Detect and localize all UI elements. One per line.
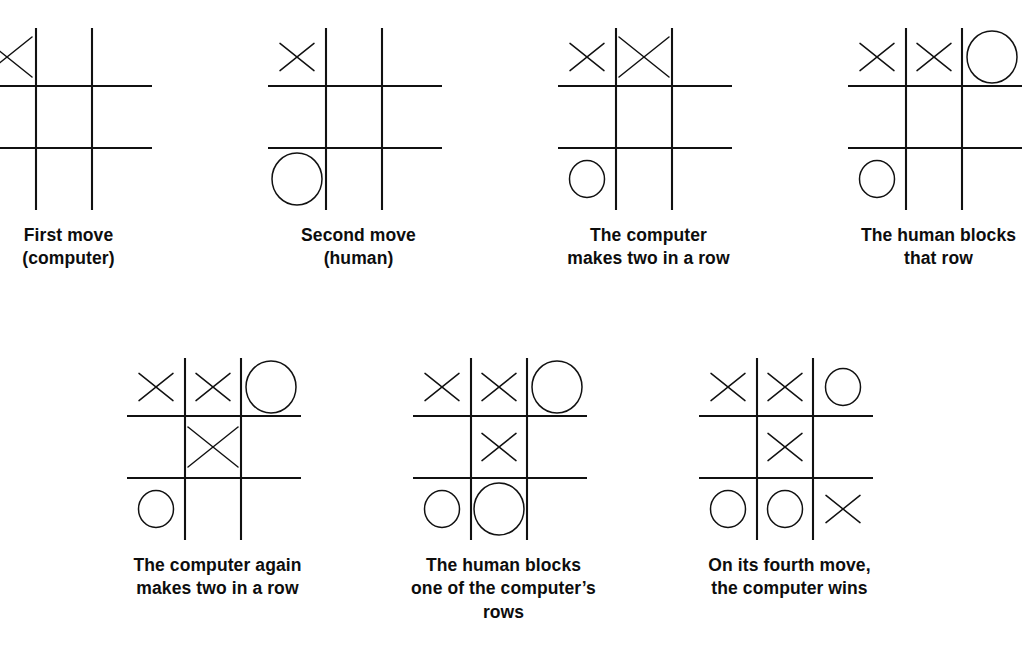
board-2 [264, 18, 454, 218]
o-circle [967, 31, 1017, 83]
o-circle [569, 161, 604, 198]
caption-line: The computer again [103, 554, 333, 577]
o-circle [767, 491, 802, 528]
board-5 [123, 348, 313, 548]
board-caption-7: On its fourth move,the computer wins [675, 554, 905, 601]
board-caption-2: Second move(human) [244, 224, 474, 271]
board-caption-1: First move(computer) [0, 224, 184, 271]
o-circle [474, 483, 524, 535]
cell-mark-top-center-x [619, 37, 669, 77]
caption-line: The computer [534, 224, 764, 247]
o-circle [424, 491, 459, 528]
cell-mark-middle-center-x [768, 433, 802, 460]
cell-mark-middle-center-x [188, 427, 238, 467]
caption-line: The human blocks [389, 554, 619, 577]
tic-tac-toe-grid [844, 18, 1026, 218]
caption-line: makes two in a row [103, 577, 333, 600]
o-circle [138, 491, 173, 528]
tic-tac-toe-grid [554, 18, 744, 218]
cell-mark-top-left-x [711, 373, 745, 400]
tic-tac-toe-grid [0, 18, 164, 218]
board-7 [695, 348, 885, 548]
cell-mark-top-center-x [196, 373, 230, 400]
bottom-row: The computer againmakes two in a rowThe … [0, 348, 1007, 624]
o-circle [859, 161, 894, 198]
cell-mark-top-right-o [246, 361, 296, 413]
caption-line: The human blocks [824, 224, 1026, 247]
o-circle [710, 491, 745, 528]
caption-line: On its fourth move, [675, 554, 905, 577]
caption-line: the computer wins [675, 577, 905, 600]
cell-mark-bottom-left-o [138, 491, 173, 528]
o-circle [246, 361, 296, 413]
cell-mark-top-left-x [139, 373, 173, 400]
board-panel-6: The human blocksone of the computer’srow… [389, 348, 619, 624]
x-stroke [0, 37, 32, 77]
cell-mark-top-center-x [482, 373, 516, 400]
o-circle [272, 153, 322, 205]
board-6 [409, 348, 599, 548]
board-panel-7: On its fourth move,the computer wins [675, 348, 905, 624]
cell-mark-bottom-left-o [859, 161, 894, 198]
caption-line: (human) [244, 247, 474, 270]
cell-mark-bottom-right-x [826, 495, 860, 522]
board-4 [844, 18, 1026, 218]
tic-tac-toe-grid [409, 348, 599, 548]
x-stroke [0, 37, 32, 77]
cell-mark-top-right-o [825, 369, 860, 406]
board-caption-5: The computer againmakes two in a row [103, 554, 333, 601]
tic-tac-toe-grid [695, 348, 885, 548]
cell-mark-bottom-left-o [272, 153, 322, 205]
o-circle [825, 369, 860, 406]
cell-mark-middle-center-x [482, 433, 516, 460]
caption-line: rows [389, 601, 619, 624]
tic-tac-toe-grid [123, 348, 313, 548]
caption-line: First move [0, 224, 184, 247]
board-panel-1: First move(computer) [0, 18, 184, 271]
cell-mark-bottom-center-o [767, 491, 802, 528]
caption-line: that row [824, 247, 1026, 270]
top-row: First move(computer)Second move(human)Th… [0, 18, 1007, 271]
cell-mark-bottom-left-o [424, 491, 459, 528]
cell-mark-top-left-x [570, 43, 604, 70]
cell-mark-top-left-x [425, 373, 459, 400]
cell-mark-top-right-o [532, 361, 582, 413]
cell-mark-bottom-center-o [474, 483, 524, 535]
cell-mark-bottom-left-o [569, 161, 604, 198]
board-panel-2: Second move(human) [244, 18, 474, 271]
board-panel-5: The computer againmakes two in a row [103, 348, 333, 624]
caption-line: one of the computer’s [389, 577, 619, 600]
cell-mark-top-center-x [768, 373, 802, 400]
board-panel-3: The computermakes two in a row [534, 18, 764, 271]
cell-mark-top-center-x [917, 43, 951, 70]
cell-mark-top-left-x [280, 43, 314, 70]
board-1 [0, 18, 164, 218]
board-caption-3: The computermakes two in a row [534, 224, 764, 271]
o-circle [532, 361, 582, 413]
cell-mark-bottom-left-o [710, 491, 745, 528]
board-3 [554, 18, 744, 218]
board-panel-4: The human blocksthat row [824, 18, 1026, 271]
caption-line: (computer) [0, 247, 184, 270]
cell-mark-top-left-x [0, 37, 32, 77]
board-caption-4: The human blocksthat row [824, 224, 1026, 271]
cell-mark-top-left-x [860, 43, 894, 70]
caption-line: Second move [244, 224, 474, 247]
board-caption-6: The human blocksone of the computer’srow… [389, 554, 619, 624]
caption-line: makes two in a row [534, 247, 764, 270]
tic-tac-toe-grid [264, 18, 454, 218]
cell-mark-top-right-o [967, 31, 1017, 83]
